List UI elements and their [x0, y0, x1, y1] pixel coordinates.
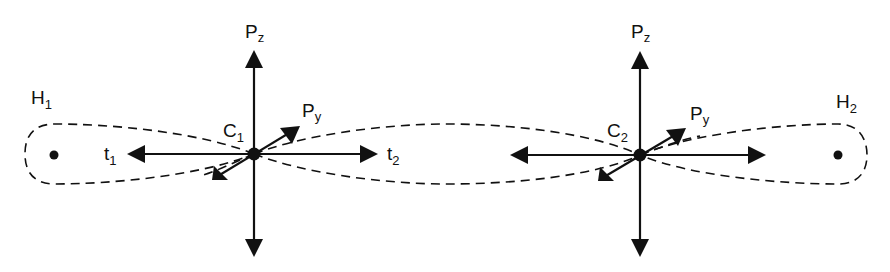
c1-orbitals	[127, 50, 378, 257]
c1-label: C1	[223, 120, 244, 145]
c1-t2-arrowhead	[360, 145, 378, 163]
t2-label: t2	[387, 143, 400, 168]
c1-pz-down-arrowhead	[245, 239, 263, 257]
c1-py-label: Py	[302, 100, 322, 124]
h2-nucleus	[834, 151, 843, 160]
c1-t1-arrowhead	[127, 145, 145, 163]
c1-pz-up-arrowhead	[245, 50, 263, 68]
c2-py-up-arrowhead	[666, 128, 686, 146]
c1-pz-label: Pz	[245, 21, 264, 45]
lobe-c1-c2-upper	[254, 124, 640, 155]
c2-py-label: Py	[690, 103, 710, 127]
c2-pz-down-arrowhead	[631, 239, 649, 257]
c2-orbitals	[510, 51, 766, 257]
h1-nucleus	[50, 151, 59, 160]
orbital-diagram: H1 C1 C2 H2 Pz Pz Py Py t1 t2	[0, 0, 890, 272]
c2-left-arrowhead	[510, 146, 528, 164]
h1-label: H1	[31, 87, 52, 112]
c2-label: C2	[607, 120, 628, 145]
c2-right-arrowhead	[748, 146, 766, 164]
c2-nucleus	[634, 149, 647, 162]
c2-py-down-arrowhead	[598, 167, 614, 181]
c1-py-up-arrowhead	[280, 126, 300, 144]
t1-label: t1	[104, 143, 117, 168]
h2-label: H2	[836, 91, 857, 116]
c1-nucleus	[248, 148, 261, 161]
c2-pz-up-arrowhead	[631, 51, 649, 69]
lobe-c1-c2-lower	[254, 154, 640, 184]
c2-pz-label: Pz	[631, 21, 650, 45]
